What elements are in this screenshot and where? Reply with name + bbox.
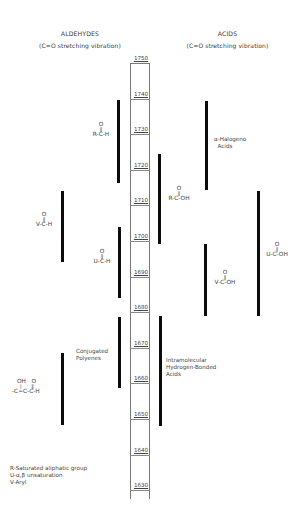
range-bar-r-c-h — [117, 100, 120, 183]
scale-tick — [130, 241, 150, 242]
scale-tick-label: 1700 — [131, 233, 151, 239]
label-intramolecular-h-bonded-acids: Intramolecular Hydrogen-Bonded Acids — [166, 357, 216, 378]
label-r-c-oh: O ‖ R-C-OH — [164, 185, 194, 201]
label-v-c-h: O ‖ V-C-H — [30, 211, 58, 227]
legend-item-u: U-α,β unsaturation — [10, 472, 87, 479]
label-r-c-h: O ‖ R-C-H — [88, 121, 114, 137]
scale-tick — [130, 99, 150, 100]
range-bar-r-c-oh — [158, 154, 161, 244]
range-bar-conjugated-polyenes — [118, 317, 121, 388]
scale-tick-label: 1680 — [131, 304, 151, 310]
scale-tick-label: 1740 — [131, 91, 151, 97]
scale-tick — [130, 277, 150, 278]
scale-tick — [130, 348, 150, 349]
scale-tick-label: 1670 — [131, 340, 151, 346]
acids-header: ACIDS (C=O stretching vibration) — [165, 28, 290, 52]
acids-title: ACIDS — [165, 28, 290, 40]
scale-tick-label: 1640 — [131, 447, 151, 453]
aldehydes-subtitle: (C=O stretching vibration) — [20, 40, 140, 52]
scale-tick-label: 1650 — [131, 411, 151, 417]
scale-tick — [130, 490, 150, 491]
scale-tick-label: 1710 — [131, 197, 151, 203]
range-bar-v-c-oh — [204, 244, 207, 316]
range-bar-enol-aldehyde — [61, 353, 64, 425]
scale-tick-label: 1720 — [131, 162, 151, 168]
scale-tick — [130, 312, 150, 313]
range-bar-alpha-halogeno-acids — [205, 101, 208, 190]
scale-tick-label: 1660 — [131, 375, 151, 381]
range-bar-v-c-h — [61, 191, 64, 262]
scale-tick — [130, 455, 150, 456]
scale-tick — [130, 419, 150, 420]
scale-tick — [130, 134, 150, 135]
legend-item-v: V-Aryl — [10, 479, 87, 486]
label-conjugated-polyenes: Conjugated Polyenes — [76, 348, 108, 362]
label-v-c-oh: O ‖ V-C-OH — [210, 269, 240, 285]
scale-tick-label: 1630 — [131, 482, 151, 488]
label-u-c-oh: O ‖ U-C-OH — [262, 241, 292, 257]
aldehydes-title: ALDEHYDES — [20, 28, 140, 40]
scale-tick-label: 1750 — [131, 55, 151, 61]
scale-tick — [130, 383, 150, 384]
label-enol-aldehyde: OH O | ‖ -C=C-C-H — [12, 378, 58, 394]
range-bar-intramolecular-h-bonded-acids — [159, 316, 162, 426]
label-alpha-halogeno-acids: α-Halogeno Acids — [214, 136, 246, 150]
abbreviation-legend: R-Saturated aliphatic group U-α,β unsatu… — [10, 465, 87, 486]
scale-tick-label: 1690 — [131, 269, 151, 275]
acids-subtitle: (C=O stretching vibration) — [165, 40, 290, 52]
scale-tick — [130, 205, 150, 206]
scale-tick — [130, 170, 150, 171]
range-bar-u-c-oh — [257, 191, 260, 316]
legend-item-r: R-Saturated aliphatic group — [10, 465, 87, 472]
range-bar-u-c-h — [118, 227, 121, 298]
label-u-c-h: O ‖ U-C-H — [88, 248, 116, 264]
scale-tick-label: 1730 — [131, 126, 151, 132]
aldehydes-header: ALDEHYDES (C=O stretching vibration) — [20, 28, 140, 52]
